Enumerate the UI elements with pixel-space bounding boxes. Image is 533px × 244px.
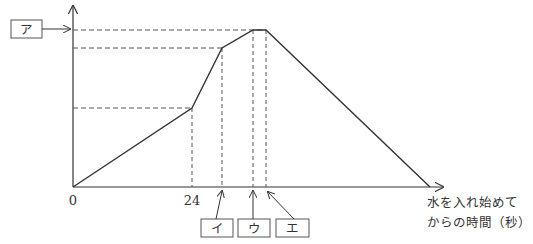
label-u: ウ bbox=[248, 221, 261, 236]
water-level-line bbox=[73, 30, 430, 187]
x-axis-label-line2: からの時間（秒） bbox=[427, 215, 531, 230]
graph-canvas: ア 0 24 イ ウ エ 水を入れ始めて からの時間（秒） bbox=[0, 0, 533, 244]
horizontal-guides bbox=[73, 30, 266, 108]
tick-24-label: 24 bbox=[184, 193, 201, 208]
x-axis-label-line1: 水を入れ始めて bbox=[427, 195, 518, 210]
label-e: エ bbox=[286, 221, 299, 236]
vertical-guides bbox=[192, 30, 266, 187]
origin-label: 0 bbox=[69, 193, 77, 208]
label-i-arrow bbox=[216, 191, 222, 219]
label-i: イ bbox=[211, 221, 224, 236]
label-e-arrow bbox=[268, 192, 294, 219]
label-a: ア bbox=[20, 22, 33, 37]
